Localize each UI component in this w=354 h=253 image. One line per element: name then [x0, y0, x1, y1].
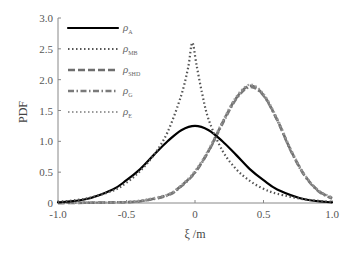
legend-item-shd: ρSHD — [68, 63, 141, 77]
x-tick-label: -1.0 — [49, 208, 67, 220]
y-tick-label: 3.0 — [39, 12, 53, 24]
legend-label: ρMB — [122, 42, 138, 56]
legend-item-a: ρA — [68, 21, 133, 35]
y-tick-label: 2.5 — [39, 43, 53, 55]
curve-g — [58, 87, 332, 203]
legend-item-e: ρE — [68, 105, 132, 119]
x-tick-label: 0.5 — [257, 208, 271, 220]
y-axis-label: PDF — [16, 101, 30, 123]
x-tick-label: 0 — [192, 208, 198, 220]
legend-label: ρE — [122, 105, 132, 119]
legend-item-mb: ρMB — [68, 42, 138, 56]
x-tick-label: -0.5 — [118, 208, 136, 220]
y-tick-label: 2.0 — [39, 74, 53, 86]
curve-e — [58, 85, 332, 203]
legend-label: ρG — [122, 84, 133, 98]
y-tick-label: 1.5 — [39, 105, 53, 117]
legend-label: ρA — [122, 21, 133, 35]
y-tick-label: 0.5 — [39, 166, 53, 178]
y-tick-label: 1.0 — [39, 135, 53, 147]
x-axis-label: ξ /m — [184, 227, 206, 241]
pdf-chart: 00.51.01.52.02.53.0-1.0-0.500.51.0 ρAρMB… — [0, 0, 354, 253]
axes: 00.51.01.52.02.53.0-1.0-0.500.51.0 — [39, 12, 339, 220]
curve-mb — [58, 43, 332, 202]
data-curves — [58, 43, 332, 203]
legend-item-g: ρG — [68, 84, 133, 98]
legend: ρAρMBρSHDρGρE — [68, 21, 141, 119]
x-tick-label: 1.0 — [325, 208, 339, 220]
curve-shd — [58, 86, 332, 203]
legend-label: ρSHD — [122, 63, 141, 77]
curve-a — [58, 126, 332, 202]
